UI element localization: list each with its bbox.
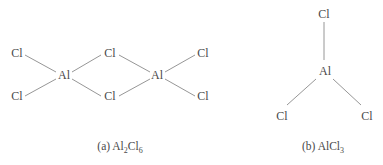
caption-al2cl6: (a) Al2Cl6 — [97, 140, 142, 155]
bond-al2-cl-bridge-bottom — [119, 79, 150, 96]
atom-al-1: Al — [58, 68, 71, 82]
atom-cl-top: Cl — [318, 7, 330, 21]
atom-cl-terminal-bottom-left: Cl — [11, 89, 23, 103]
atom-cl-bridge-bottom: Cl — [104, 89, 116, 103]
bond-al1-cl-bl — [25, 79, 56, 96]
atom-cl-terminal-top-left: Cl — [11, 46, 23, 60]
subscript-3: 3 — [340, 146, 344, 155]
bond-al1-cl-bridge-bottom — [72, 79, 101, 96]
subscript-6: 6 — [139, 146, 143, 155]
alcl3-structure: Cl Al Cl Cl (b) AlCl3 — [276, 7, 373, 155]
formula-cl: Cl — [128, 140, 139, 152]
bond-al2-cl-bridge-top — [119, 55, 150, 72]
caption-alcl3: (b) AlCl3 — [302, 140, 344, 155]
bond-al1-cl-tl — [25, 55, 56, 72]
atom-cl-terminal-top-right: Cl — [197, 46, 209, 60]
atom-cl-terminal-bottom-right: Cl — [197, 89, 209, 103]
atom-cl-bridge-top: Cl — [104, 46, 116, 60]
caption-label-a: (a) — [97, 140, 112, 153]
atom-al-2: Al — [151, 68, 164, 82]
caption-label-b: (b) — [302, 140, 318, 153]
structure-diagrams: Cl Cl Al Cl Cl Al Cl Cl (a) Al2Cl6 Cl Al… — [0, 0, 383, 165]
formula-alcl: AlCl — [318, 140, 340, 152]
formula-al: Al — [112, 140, 124, 152]
bond-al-cl-bottom-left — [287, 79, 316, 105]
bond-al2-cl-tr — [165, 55, 195, 72]
atom-cl-bottom-left: Cl — [276, 109, 288, 123]
atom-cl-bottom-right: Cl — [361, 109, 373, 123]
bond-al1-cl-bridge-top — [72, 55, 101, 72]
bond-al2-cl-br — [165, 79, 195, 96]
al2cl6-structure: Cl Cl Al Cl Cl Al Cl Cl (a) Al2Cl6 — [11, 46, 209, 155]
bond-al-cl-bottom-right — [333, 79, 361, 105]
atom-al: Al — [319, 64, 332, 78]
